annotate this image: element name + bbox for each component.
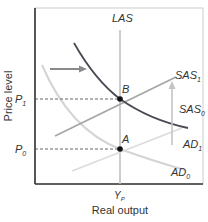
p0-tick-label: P0: [15, 143, 26, 157]
x-axis-label: Real output: [92, 204, 148, 216]
sas-shift-arrowhead-icon: [169, 81, 176, 89]
sas1-label: SAS1: [175, 69, 201, 83]
yp-tick-label: YP: [114, 190, 125, 202]
ad-shift-arrowhead-icon: [79, 66, 87, 73]
las-label: LAS: [112, 12, 133, 24]
sas1-line: [55, 77, 176, 136]
ad0-label: AD0: [170, 166, 190, 180]
sas0-label: SAS0: [179, 103, 205, 117]
point-a: [117, 146, 123, 152]
point-b-label: B: [122, 83, 129, 95]
ad1-label: AD1: [182, 138, 202, 152]
point-b: [117, 96, 123, 102]
ad-as-diagram: LAS B A SAS1 SAS0 AD1 AD0 P1 P0 YP Real …: [0, 0, 208, 222]
p1-tick-label: P1: [15, 93, 26, 107]
plot-frame: [35, 8, 203, 184]
point-a-label: A: [121, 133, 129, 145]
y-axis-label: Price level: [2, 71, 14, 122]
